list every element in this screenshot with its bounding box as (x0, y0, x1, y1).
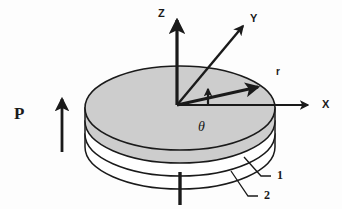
disc-coordinate-diagram (0, 0, 342, 209)
diagram-canvas: Z Y X r θ P 1 2 (0, 0, 342, 209)
z-axis-label: Z (158, 8, 165, 19)
x-axis-label: X (322, 99, 329, 110)
layer-two-label: 2 (264, 189, 270, 201)
disc-top-face (85, 66, 275, 150)
y-axis-label: Y (250, 13, 257, 24)
theta-angle-label: θ (198, 120, 205, 134)
layer-one-label: 1 (277, 169, 283, 181)
polarization-label: P (14, 105, 24, 122)
r-vector-label: r (276, 67, 280, 77)
